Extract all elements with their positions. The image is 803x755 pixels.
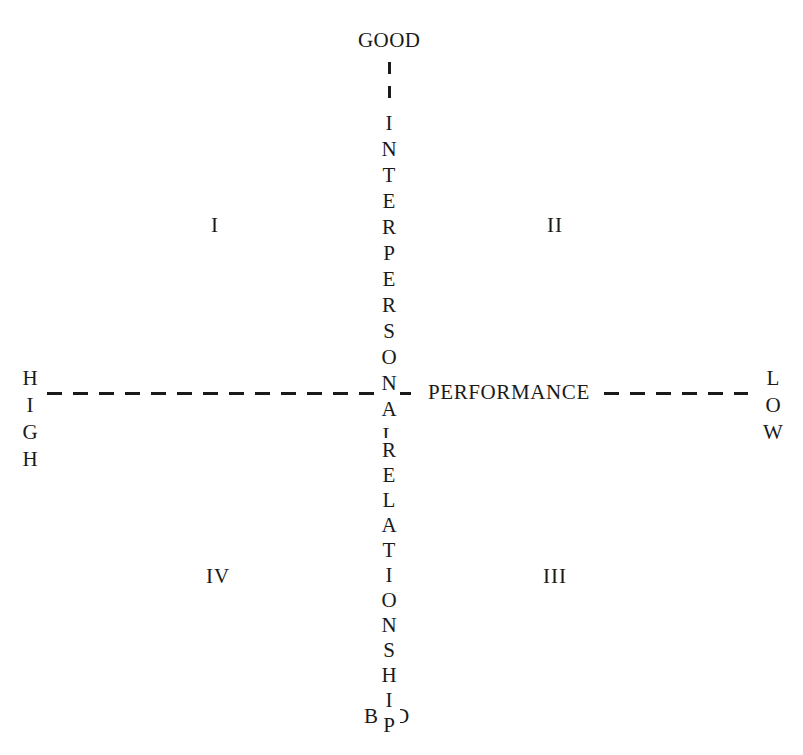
axis-right-label-low: L O W xyxy=(763,365,783,446)
vletter: R xyxy=(378,292,400,318)
vertical-axis-label-interpersonal: I N T E R P E R S O N A L xyxy=(378,110,400,448)
axis-left-label-high: H I G H xyxy=(20,365,40,473)
vletter: N xyxy=(378,136,400,162)
vletter: O xyxy=(763,392,783,419)
vletter: I xyxy=(378,110,400,136)
quadrant-label-iii: III xyxy=(535,566,575,587)
quadrant-label-iv: IV xyxy=(198,566,238,587)
vletter: P xyxy=(378,240,400,266)
vletter: P xyxy=(378,713,400,738)
vletter: G xyxy=(20,419,40,446)
vletter: A xyxy=(378,513,400,538)
vletter: O xyxy=(378,588,400,613)
vletter: H xyxy=(20,365,40,392)
axis-top-label: GOOD xyxy=(358,30,420,51)
vletter: I xyxy=(20,392,40,419)
vletter: E xyxy=(378,188,400,214)
vletter: I xyxy=(378,688,400,713)
vletter: A xyxy=(378,396,400,422)
vletter: I xyxy=(378,563,400,588)
vletter: T xyxy=(378,162,400,188)
vletter: N xyxy=(378,370,400,396)
vletter: H xyxy=(20,446,40,473)
vletter: N xyxy=(378,613,400,638)
vletter: E xyxy=(378,266,400,292)
vertical-axis-dash-top xyxy=(388,62,391,108)
vletter: O xyxy=(378,344,400,370)
vletter: L xyxy=(378,488,400,513)
vletter: H xyxy=(378,663,400,688)
quadrant-label-ii: II xyxy=(535,215,575,236)
vertical-axis-label-relationship: R E L A T I O N S H I P xyxy=(378,438,400,738)
quadrant-diagram: GOOD BAD I N T E R P E R S O N A L R E L… xyxy=(0,0,803,755)
horizontal-axis-label: PERFORMANCE xyxy=(421,382,597,403)
vletter: W xyxy=(763,419,783,446)
quadrant-label-i: I xyxy=(195,215,235,236)
vletter: T xyxy=(378,538,400,563)
vletter: R xyxy=(378,438,400,463)
vletter: R xyxy=(378,214,400,240)
vletter: S xyxy=(378,638,400,663)
vletter: L xyxy=(763,365,783,392)
horizontal-axis-left xyxy=(47,392,383,395)
vletter: S xyxy=(378,318,400,344)
vletter: E xyxy=(378,463,400,488)
